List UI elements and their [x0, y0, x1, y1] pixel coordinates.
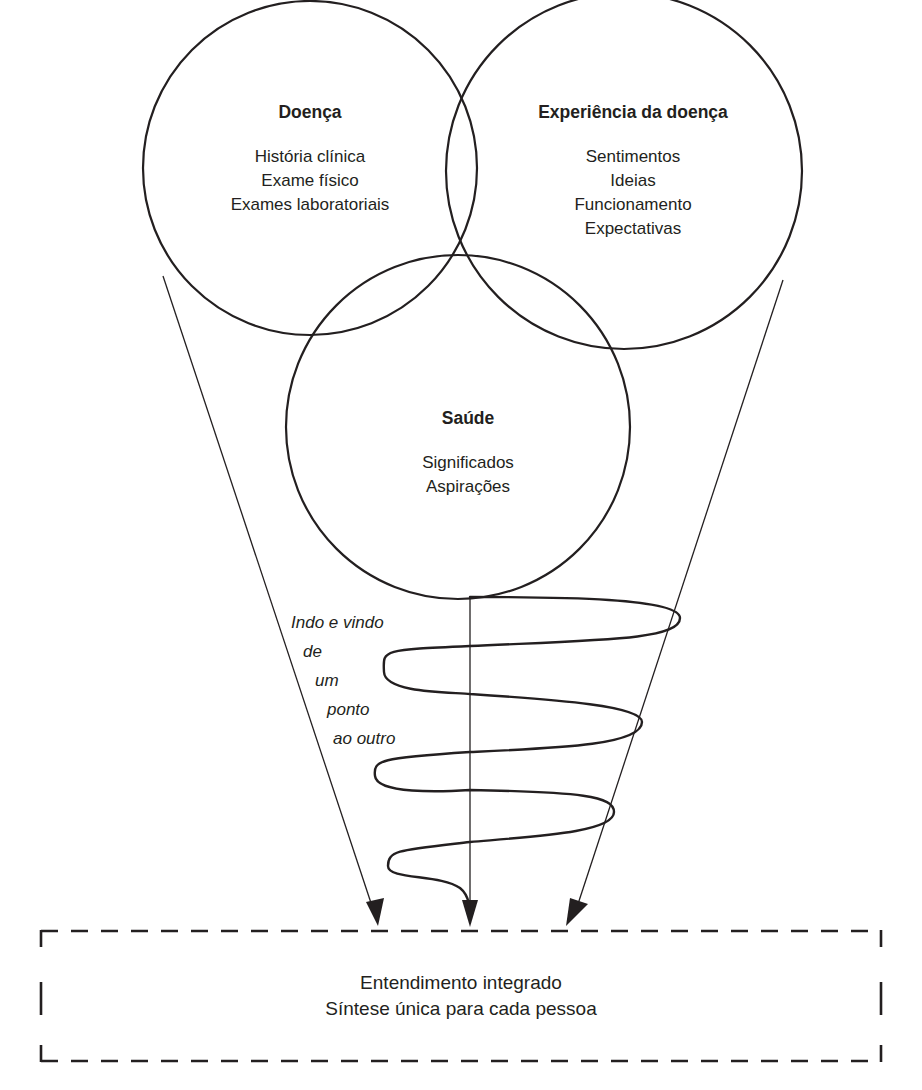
result-box-line: Síntese única para cada pessoa: [0, 996, 922, 1022]
spiral-note-line: um: [315, 666, 395, 695]
circle-experiencia-title: Experiência da doença: [538, 102, 728, 123]
result-box-text: Entendimento integrado Síntese única par…: [0, 970, 922, 1022]
spiral-back-and-forth: [375, 597, 680, 918]
list-item: Funcionamento: [538, 193, 728, 217]
list-item: Exames laboratoriais: [231, 193, 390, 217]
circle-experiencia-label: Experiência da doença Sentimentos Ideias…: [538, 102, 728, 241]
spiral-note-line: ao outro: [333, 724, 395, 753]
list-item: Significados: [422, 451, 514, 475]
diagram-canvas: [0, 0, 922, 1090]
list-item: Sentimentos: [538, 145, 728, 169]
arrowhead-left-icon: [366, 898, 384, 926]
spiral-note: Indo e vindo de um ponto ao outro: [291, 608, 395, 753]
list-item: Aspirações: [422, 475, 514, 499]
list-item: História clínica: [231, 145, 390, 169]
circle-saude-title: Saúde: [422, 408, 514, 429]
list-item: Ideias: [538, 169, 728, 193]
circle-experiencia-items: Sentimentos Ideias Funcionamento Expecta…: [538, 145, 728, 241]
arrow-from-experiencia: [578, 280, 783, 904]
result-box-line: Entendimento integrado: [0, 970, 922, 996]
arrow-from-doenca: [163, 276, 372, 906]
circle-doenca-label: Doença História clínica Exame físico Exa…: [231, 102, 390, 217]
list-item: Expectativas: [538, 217, 728, 241]
circle-doenca-items: História clínica Exame físico Exames lab…: [231, 145, 390, 217]
circle-saude-items: Significados Aspirações: [422, 451, 514, 499]
spiral-note-line: Indo e vindo: [291, 608, 395, 637]
list-item: Exame físico: [231, 169, 390, 193]
spiral-note-line: de: [303, 637, 395, 666]
spiral-note-line: ponto: [327, 695, 395, 724]
arrowhead-right-icon: [566, 898, 588, 926]
circle-saude-label: Saúde Significados Aspirações: [422, 408, 514, 499]
circle-doenca-title: Doença: [231, 102, 390, 123]
